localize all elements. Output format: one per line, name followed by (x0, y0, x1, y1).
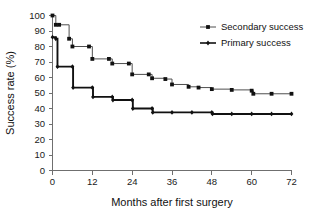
chart-canvas: 0102030405060708090100 0122436486072 Sec… (0, 0, 312, 213)
data-point-marker (190, 110, 194, 115)
y-axis-ticks: 0102030405060708090100 (29, 10, 52, 176)
data-point-marker (197, 86, 201, 90)
x-tick-label: 24 (127, 176, 138, 187)
y-tick-label: 0 (40, 165, 45, 176)
data-point-marker (290, 112, 294, 117)
legend-label: Secondary success (221, 21, 304, 32)
data-point-marker (151, 110, 155, 115)
data-point-marker (147, 73, 151, 77)
legend-item-diamond: Primary success (200, 37, 291, 48)
x-tick-label: 72 (286, 176, 297, 187)
x-axis-title: Months after first surgery (111, 196, 233, 208)
data-point-marker (51, 35, 55, 40)
data-point-marker (110, 62, 114, 66)
legend-item-square: Secondary success (200, 21, 304, 32)
y-tick-label: 50 (34, 87, 45, 98)
data-point-marker (51, 14, 55, 18)
data-point-marker (250, 112, 254, 117)
data-point-marker (251, 92, 255, 96)
data-point-marker (90, 57, 94, 61)
data-point-marker (107, 57, 111, 61)
x-tick-label: 60 (246, 176, 257, 187)
legend-label: Primary success (221, 37, 291, 48)
y-tick-label: 60 (34, 72, 45, 83)
data-point-marker (131, 106, 135, 111)
data-point-marker (54, 23, 58, 27)
y-tick-label: 90 (34, 25, 45, 36)
data-point-marker (170, 83, 174, 87)
data-point-marker (206, 25, 210, 29)
y-axis-title: Success rate (%) (4, 51, 16, 135)
y-tick-label: 20 (34, 134, 45, 145)
data-point-marker (57, 23, 61, 27)
chart-legend: Secondary successPrimary success (200, 21, 304, 48)
y-tick-label: 30 (34, 118, 45, 129)
x-axis-ticks: 0122436486072 (50, 171, 297, 188)
y-tick-label: 100 (29, 10, 45, 21)
x-tick-label: 12 (87, 176, 98, 187)
data-point-marker (71, 85, 75, 90)
data-point-marker (290, 92, 294, 96)
data-point-marker (71, 45, 75, 49)
data-point-marker (270, 112, 274, 117)
x-tick-label: 36 (167, 176, 178, 187)
y-tick-label: 40 (34, 103, 45, 114)
data-point-marker (230, 88, 234, 92)
data-point-marker (87, 45, 91, 49)
y-tick-label: 10 (34, 149, 45, 160)
data-point-marker (230, 112, 234, 117)
data-point-marker (130, 73, 134, 77)
data-point-marker (187, 85, 191, 89)
y-tick-label: 80 (34, 41, 45, 52)
data-point-marker (91, 94, 95, 99)
series-step-line (53, 37, 292, 114)
data-point-marker (127, 62, 131, 66)
data-point-marker (210, 87, 214, 91)
y-tick-label: 70 (34, 56, 45, 67)
data-point-marker (56, 64, 60, 69)
data-point-marker (170, 110, 174, 115)
data-point-marker (67, 37, 71, 41)
data-point-marker (150, 76, 154, 80)
x-tick-label: 0 (50, 176, 55, 187)
data-point-marker (163, 77, 167, 81)
kaplan-meier-figure: 0102030405060708090100 0122436486072 Sec… (0, 0, 312, 213)
data-point-marker (270, 92, 274, 96)
x-tick-label: 48 (207, 176, 218, 187)
data-point-marker (206, 41, 210, 46)
